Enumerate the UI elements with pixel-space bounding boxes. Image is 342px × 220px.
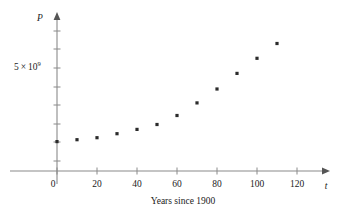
data-point <box>275 42 278 45</box>
data-point <box>115 132 118 135</box>
chart-caption: Years since 1900 <box>127 196 215 206</box>
y-axis-arrow-icon <box>54 12 61 20</box>
y-tick-label-5e9: 5×109 <box>14 63 41 73</box>
x-tick-label-80: 80 <box>212 179 222 189</box>
x-tick-label-40: 40 <box>132 179 142 189</box>
y-axis-name: P <box>36 13 43 23</box>
y-tick-label-times: × <box>19 62 28 72</box>
data-point <box>155 123 158 126</box>
y-tick-label-exponent: 9 <box>38 60 41 67</box>
data-point <box>135 128 138 131</box>
x-tick-label-0: 0 <box>51 179 56 189</box>
x-tick-label-20: 20 <box>92 179 102 189</box>
scatter-plot-figure: 0 20 40 60 80 100 120 P t 5×109 Years <box>0 0 342 220</box>
data-point <box>95 136 98 139</box>
data-point-series <box>55 42 278 143</box>
data-point <box>175 114 178 117</box>
data-point <box>215 87 218 90</box>
data-point <box>195 101 198 104</box>
x-tick-label-60: 60 <box>172 179 182 189</box>
x-tick-label-100: 100 <box>250 179 265 189</box>
data-point <box>255 57 258 60</box>
x-tick-label-120: 120 <box>290 179 305 189</box>
data-point <box>235 72 238 75</box>
x-axis-arrow-icon <box>322 168 330 175</box>
data-point <box>75 138 78 141</box>
y-tick-label-base: 10 <box>28 62 38 72</box>
plot-canvas: 0 20 40 60 80 100 120 P t <box>0 0 342 220</box>
chart-caption-row: Years since 1900 <box>0 196 342 206</box>
data-point <box>55 140 58 143</box>
x-axis-name: t <box>325 181 328 191</box>
